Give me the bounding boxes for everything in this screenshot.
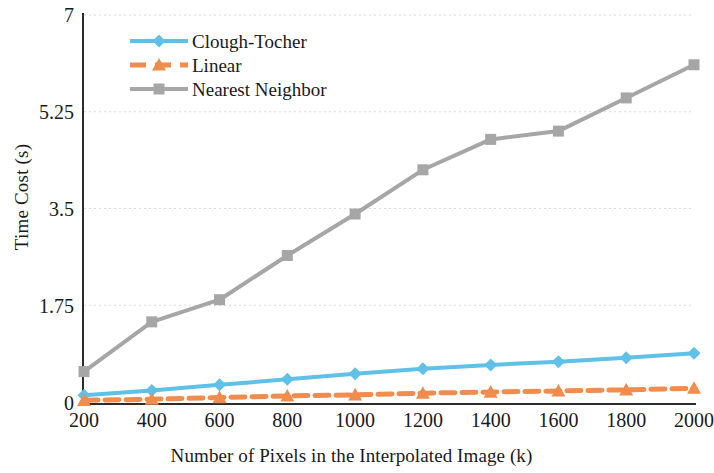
- x-tick-label: 800: [272, 410, 302, 430]
- x-axis-title: Number of Pixels in the Interpolated Ima…: [0, 445, 703, 467]
- data-point-marker: [281, 373, 294, 386]
- legend-item[interactable]: Linear: [128, 54, 327, 76]
- series-line: [84, 65, 694, 372]
- series-nearest-neighbor: [79, 59, 700, 377]
- data-point-marker: [688, 347, 701, 360]
- data-point-marker: [687, 381, 701, 394]
- legend-key-triangle-icon: [128, 54, 190, 76]
- data-point-marker: [349, 367, 362, 380]
- x-tick-label: 2000: [674, 410, 714, 430]
- legend-label: Nearest Neighbor: [192, 80, 327, 99]
- x-tick-label: 600: [205, 410, 235, 430]
- x-tick-label: 1800: [606, 410, 646, 430]
- x-tick-label: 200: [69, 410, 99, 430]
- data-point-marker: [146, 316, 157, 327]
- data-point-marker: [214, 294, 225, 305]
- data-point-marker: [620, 351, 633, 364]
- data-point-marker: [485, 134, 496, 145]
- data-point-marker: [350, 209, 361, 220]
- x-tick-label: 1600: [538, 410, 578, 430]
- data-point-marker: [282, 250, 293, 261]
- data-point-marker: [689, 59, 700, 70]
- x-axis-line: [82, 403, 696, 405]
- data-point-marker: [154, 84, 165, 95]
- x-tick-label: 1200: [403, 410, 443, 430]
- legend-key-square-icon: [128, 78, 190, 100]
- legend: Clough-Tocher Linear Nearest Neighbor: [128, 30, 327, 100]
- y-axis-title: Time Cost (s): [11, 87, 33, 307]
- legend-label: Linear: [192, 56, 242, 75]
- data-point-marker: [621, 92, 632, 103]
- data-point-marker: [553, 126, 564, 137]
- data-point-marker: [416, 362, 429, 375]
- x-tick-label: 1400: [471, 410, 511, 430]
- data-point-marker: [484, 358, 497, 371]
- legend-item[interactable]: Nearest Neighbor: [128, 78, 327, 100]
- legend-label: Clough-Tocher: [192, 32, 307, 51]
- data-point-marker: [153, 35, 166, 48]
- data-point-marker: [552, 355, 565, 368]
- legend-item[interactable]: Clough-Tocher: [128, 30, 327, 52]
- data-point-marker: [417, 164, 428, 175]
- x-tick-label: 1000: [335, 410, 375, 430]
- data-point-marker: [213, 378, 226, 391]
- legend-key-diamond-icon: [128, 30, 190, 52]
- x-tick-label: 400: [137, 410, 167, 430]
- y-tick-label: 7: [4, 5, 74, 25]
- y-tick-label: 0: [4, 393, 74, 413]
- data-point-marker: [79, 366, 90, 377]
